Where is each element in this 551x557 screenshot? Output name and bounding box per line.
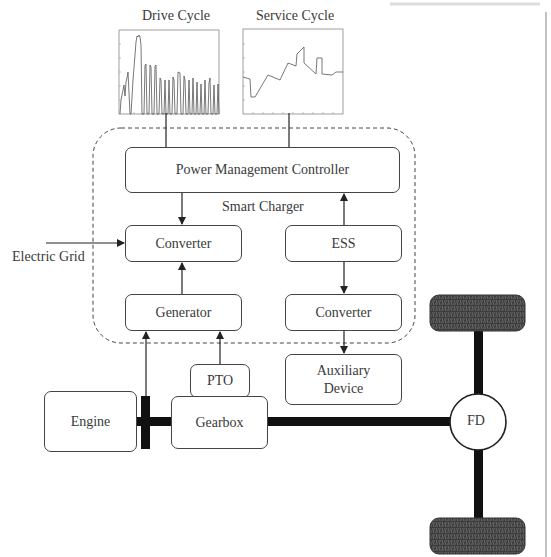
tire-bottom	[430, 518, 525, 554]
smart-charger-label: Smart Charger	[222, 199, 304, 215]
clutch-bar	[141, 396, 150, 449]
power-management-controller: Power Management Controller	[125, 147, 400, 193]
converter-left: Converter	[125, 225, 242, 262]
electric-grid-label: Electric Grid	[12, 249, 85, 265]
engine: Engine	[44, 391, 137, 452]
ess: ESS	[285, 225, 402, 262]
gearbox: Gearbox	[171, 396, 268, 449]
auxiliary-device: Auxiliary Device	[285, 354, 402, 405]
tire-top	[430, 295, 525, 331]
final-drive-label: FD	[467, 413, 485, 429]
pto: PTO	[190, 364, 250, 398]
connectors-layer	[0, 0, 551, 557]
converter-right: Converter	[285, 294, 402, 331]
generator: Generator	[125, 294, 242, 331]
